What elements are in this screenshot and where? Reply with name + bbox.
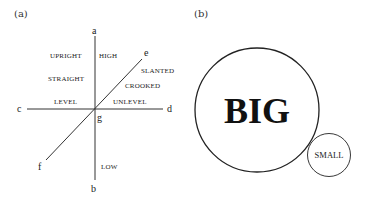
word-upright: UPRIGHT bbox=[50, 52, 82, 60]
word-straight: STRAIGHT bbox=[48, 75, 85, 83]
endpoint-a: a bbox=[92, 25, 97, 36]
big-circle-text: BIG bbox=[224, 91, 290, 131]
endpoint-e: e bbox=[144, 47, 149, 58]
panel-b-label: (b) bbox=[194, 8, 208, 19]
word-level: LEVEL bbox=[54, 98, 77, 106]
word-slanted: SLANTED bbox=[141, 67, 174, 75]
figure: (a) a b c d e f g UPRIGHT HIGH STRAIGHT … bbox=[0, 0, 365, 202]
panel-a-label: (a) bbox=[14, 8, 28, 19]
small-circle-text: SMALL bbox=[315, 150, 344, 160]
endpoint-c: c bbox=[17, 103, 22, 114]
endpoint-d: d bbox=[167, 103, 172, 114]
word-crooked: CROOKED bbox=[125, 82, 160, 90]
word-low: LOW bbox=[101, 163, 118, 171]
origin-g: g bbox=[97, 112, 102, 123]
endpoint-f: f bbox=[38, 161, 42, 172]
panel-b: (b) BIG SMALL bbox=[194, 8, 351, 177]
word-unlevel: UNLEVEL bbox=[113, 98, 147, 106]
panel-a: (a) a b c d e f g UPRIGHT HIGH STRAIGHT … bbox=[14, 8, 174, 194]
endpoint-b: b bbox=[91, 183, 96, 194]
word-high: HIGH bbox=[99, 52, 117, 60]
